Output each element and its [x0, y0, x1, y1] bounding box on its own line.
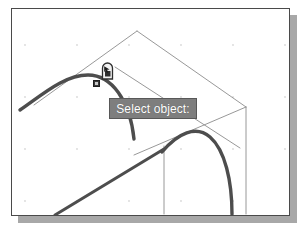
arc-lower-right-visible[interactable] [162, 131, 232, 214]
select-object-prompt: Select object: [109, 98, 197, 119]
pickbox-cursor-icon [101, 62, 116, 80]
cad-drawing-frame: Select object: [11, 8, 290, 216]
grip-point[interactable] [93, 80, 100, 87]
arc-lower-right-path[interactable] [56, 133, 234, 214]
construction-edge-top-right-line [137, 31, 246, 107]
construction-edge-top-left-line [34, 31, 137, 105]
line-diagonal-bottom-path[interactable] [55, 149, 164, 215]
cad-screenshot: Select object: [0, 0, 304, 231]
grid-dots [24, 44, 286, 202]
